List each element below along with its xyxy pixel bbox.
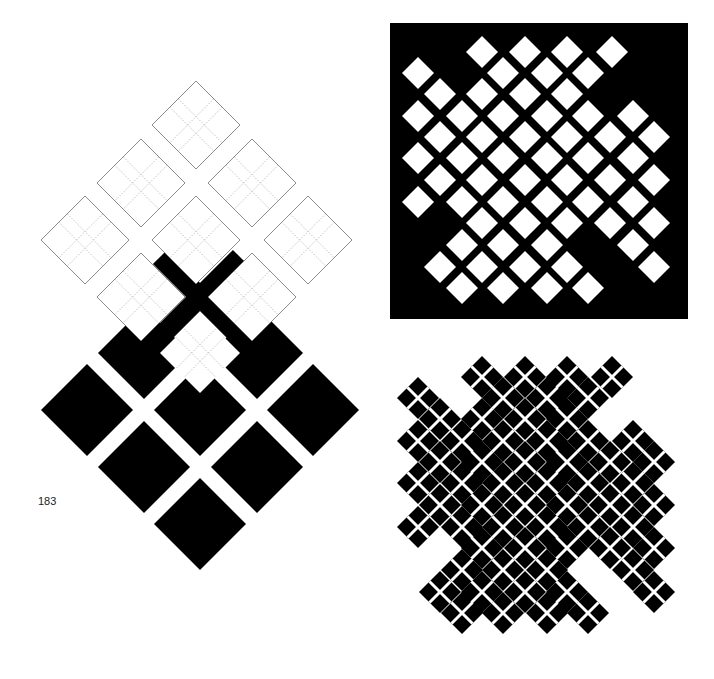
figure-canvas: [0, 0, 714, 679]
outline-diamond: [264, 196, 352, 284]
black-diamond: [41, 364, 133, 456]
outline-diamond: [152, 81, 240, 169]
top-right-figure-panel: [390, 23, 688, 319]
page-number: 183: [38, 495, 56, 507]
black-diamond: [267, 364, 359, 456]
outline-diamond: [97, 139, 185, 227]
black-diamond: [154, 478, 246, 570]
black-diamond: [211, 421, 303, 513]
black-diamond: [98, 421, 190, 513]
bottom-right-figure-lattice: [397, 356, 675, 634]
outline-diamond: [208, 139, 296, 227]
outline-diamond: [41, 196, 129, 284]
